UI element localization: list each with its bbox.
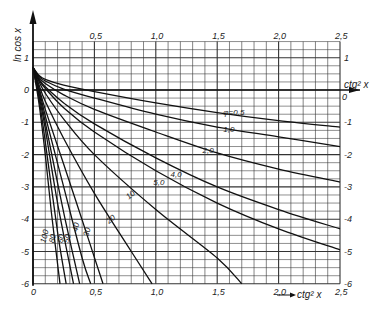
x-tick-top: 2,0: [273, 31, 287, 41]
y-tick-left: -3: [21, 182, 29, 192]
right-axis-label: ctg² x: [344, 79, 369, 90]
curve-label: 40: [70, 221, 81, 232]
curve-10: [33, 67, 340, 146]
curve-05: [33, 67, 340, 127]
x-tick-bottom: 2,0: [273, 287, 287, 297]
x-tick-top: 0,5: [89, 31, 103, 41]
x-tick-top: 1,0: [151, 31, 164, 41]
x-tick-bottom: 1,5: [212, 287, 226, 297]
x-tick-top: 2,5: [334, 31, 349, 41]
x-tick-bottom: 0,5: [89, 287, 103, 297]
y-axis-label: ln cos x: [12, 27, 23, 62]
curve-label: 4,0: [171, 170, 183, 179]
x-tick-top: 1,5: [212, 31, 226, 41]
y-tick-right: -6: [344, 279, 352, 289]
curve-label: 30: [81, 226, 92, 237]
y-tick-right: 1: [344, 53, 349, 63]
curve-label: 1,0: [223, 125, 235, 134]
y-tick-left: -5: [21, 247, 30, 257]
axes: [30, 10, 361, 298]
y-tick-right: -3: [344, 182, 352, 192]
y-tick-left: -2: [21, 150, 29, 160]
curve-label: φ=0,5: [223, 108, 245, 117]
line-chart: 00,50,51,01,01,51,52,02,02,52,51100-1-1-…: [0, 0, 384, 316]
chart-container: 00,50,51,01,01,51,52,02,02,52,51100-1-1-…: [0, 0, 384, 316]
y-tick-right: -2: [344, 150, 352, 160]
y-tick-left: -4: [21, 214, 29, 224]
x-tick-bottom: 0: [31, 287, 36, 297]
y-tick-right: -4: [344, 214, 352, 224]
curve-labels: φ=0,51,02,04,05,010203040506080100: [39, 108, 245, 244]
curve-label: 10: [124, 188, 137, 201]
y-tick-left: 0: [24, 85, 29, 95]
curve-label: 20: [104, 213, 118, 227]
curve-label: 5,0: [153, 178, 165, 187]
curve-20: [33, 67, 340, 182]
curve-label: 2,0: [201, 146, 214, 155]
curve-40: [33, 67, 340, 229]
x-axis-label: ctg² x: [297, 289, 322, 300]
y-tick-right: 0: [342, 92, 347, 102]
y-tick-right: -1: [344, 117, 352, 127]
x-tick-bottom: 1,0: [151, 287, 164, 297]
y-tick-left: -1: [21, 117, 29, 127]
y-tick-right: -5: [344, 247, 353, 257]
curve-50: [33, 67, 340, 249]
y-tick-left: -6: [21, 279, 29, 289]
y-tick-left: 1: [24, 53, 29, 63]
